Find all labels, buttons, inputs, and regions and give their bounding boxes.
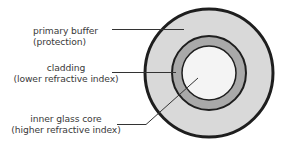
primary-buffer-label-line2: (protection) <box>33 36 98 47</box>
primary-buffer-label: primary buffer (protection) <box>33 25 98 47</box>
cladding-label-line1: cladding <box>10 62 122 73</box>
cladding-label-line2: (lower refractive index) <box>10 73 122 84</box>
inner-glass-core-label-line1: inner glass core <box>8 113 124 124</box>
inner-glass-core-label-line2: (higher refractive index) <box>8 124 124 135</box>
inner-glass-core-label: inner glass core (higher refractive inde… <box>8 113 124 135</box>
cladding-label: cladding (lower refractive index) <box>10 62 122 84</box>
primary-buffer-label-line1: primary buffer <box>33 25 98 36</box>
inner-glass-core-circle <box>182 46 236 100</box>
